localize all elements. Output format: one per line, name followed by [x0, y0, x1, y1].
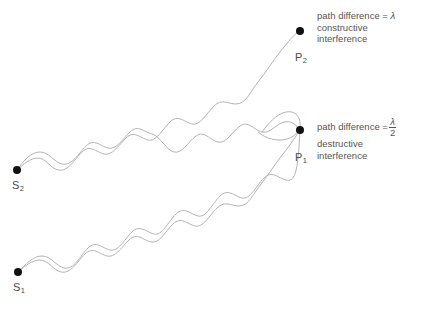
point-dot-p1 — [296, 126, 304, 134]
fraction-numerator: λ — [389, 117, 396, 127]
wave-path-s1-to-p2 — [18, 130, 300, 272]
annotation-destructive-line2: destructive — [317, 138, 396, 150]
point-dot-p2 — [296, 27, 304, 35]
point-label-p1: P1 — [295, 152, 307, 163]
source-dot-s2 — [13, 166, 21, 174]
annotation-constructive: path difference = λ constructive interfe… — [317, 10, 395, 45]
annotation-constructive-prefix: path difference = — [317, 10, 388, 21]
annotation-constructive-line2: constructive — [317, 22, 395, 34]
annotation-destructive-line1: path difference =λ2 — [317, 117, 396, 138]
annotation-constructive-line3: interference — [317, 33, 395, 45]
annotation-constructive-line1: path difference = λ — [317, 10, 395, 22]
lambda-symbol-icon: λ — [391, 10, 396, 21]
wave-path-p1-loop — [258, 112, 300, 140]
source-label-s2-subscript: 2 — [20, 184, 24, 193]
wave-path-s2-to-p1 — [17, 122, 300, 170]
interference-diagram: S2 S1 P2 P1 path difference = λ construc… — [0, 0, 422, 309]
source-label-s2-text: S — [12, 179, 19, 191]
source-label-s1-text: S — [13, 281, 20, 293]
wave-path-group — [17, 31, 300, 272]
wave-path-s1-to-p1 — [18, 130, 300, 272]
point-label-p1-subscript: 1 — [303, 156, 307, 165]
source-label-s1-subscript: 1 — [21, 286, 25, 295]
lambda-over-two-fraction: λ2 — [389, 117, 396, 138]
fraction-denominator: 2 — [389, 128, 396, 138]
point-label-p1-text: P — [295, 151, 302, 163]
source-dot-s1 — [14, 268, 22, 276]
wave-path-s2-to-p2 — [17, 31, 300, 170]
annotation-destructive-line3: interference — [317, 150, 396, 162]
source-label-s2: S2 — [12, 180, 24, 191]
point-label-p2-subscript: 2 — [303, 56, 307, 65]
annotation-destructive-prefix: path difference = — [317, 121, 388, 132]
source-label-s1: S1 — [13, 282, 25, 293]
point-label-p2: P2 — [295, 52, 307, 63]
annotation-destructive: path difference =λ2 destructive interfer… — [317, 117, 396, 161]
point-label-p2-text: P — [295, 51, 302, 63]
